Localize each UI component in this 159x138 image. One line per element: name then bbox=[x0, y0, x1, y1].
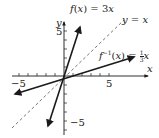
finv-eq: = bbox=[125, 50, 140, 61]
yx-eq: = bbox=[128, 14, 143, 25]
f-eq: = 3 bbox=[87, 3, 108, 14]
identity-line-y-equals-x bbox=[12, 20, 124, 128]
label-f-of-x: f(x) = 3x bbox=[70, 4, 114, 14]
x-axis-label: x bbox=[147, 64, 153, 74]
y-tick-label-neg5: −5 bbox=[70, 118, 85, 128]
label-y-equals-x: y = x bbox=[122, 15, 148, 25]
x-tick-label-pos5: 5 bbox=[106, 79, 112, 89]
finv-rhs-var: x bbox=[144, 50, 150, 61]
label-f-inverse: f−1(x) = 13x bbox=[99, 50, 149, 63]
y-tick-label-pos5: 5 bbox=[56, 27, 62, 37]
finv-sup: −1 bbox=[103, 49, 112, 56]
yx-x: x bbox=[142, 14, 148, 25]
f-rhs-var: x bbox=[108, 3, 114, 14]
x-tick-label-neg5: −5 bbox=[11, 79, 26, 89]
